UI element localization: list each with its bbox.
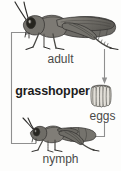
nymph-grasshopper-icon — [22, 116, 100, 154]
egg-cluster-icon — [88, 83, 114, 109]
stage-label-adult: adult — [0, 53, 121, 65]
grasshopper-life-cycle-diagram: adult grasshopper eggs — [0, 0, 121, 171]
adult-grasshopper-icon — [13, 1, 121, 53]
stage-label-nymph: nymph — [8, 153, 113, 165]
